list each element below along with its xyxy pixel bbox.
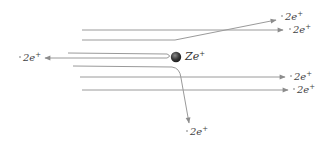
nucleus-charge: + <box>199 50 205 58</box>
alpha-symbol: 2e <box>190 126 202 137</box>
nucleus-symbol: Ze <box>185 50 199 63</box>
alpha-label-deflected-down: 2e+ <box>186 127 208 138</box>
alpha-dot-icon <box>19 56 21 58</box>
alpha-symbol: 2e <box>297 84 309 95</box>
alpha-dot-icon <box>186 130 188 132</box>
alpha-dot-icon <box>293 88 295 90</box>
trajectory-backscattered <box>45 53 170 58</box>
alpha-symbol: 2e <box>293 24 305 35</box>
alpha-label-deflected-up: 2e+ <box>281 12 303 23</box>
nucleus-label: Ze+ <box>185 52 205 63</box>
alpha-dot-icon <box>289 28 291 30</box>
trajectory-deflected-down <box>73 66 189 123</box>
alpha-symbol: 2e <box>23 52 35 63</box>
alpha-label-backscattered: 2e+ <box>19 53 41 64</box>
alpha-label-straight-3: 2e+ <box>293 85 315 96</box>
alpha-symbol: 2e <box>285 11 297 22</box>
alpha-charge: + <box>305 23 311 31</box>
alpha-charge: + <box>202 125 208 133</box>
nucleus-icon <box>171 52 181 62</box>
alpha-symbol: 2e <box>294 71 306 82</box>
alpha-charge: + <box>306 70 312 78</box>
alpha-charge: + <box>309 83 315 91</box>
alpha-charge: + <box>297 10 303 18</box>
alpha-dot-icon <box>281 15 283 17</box>
alpha-charge: + <box>35 51 41 59</box>
alpha-label-straight-2: 2e+ <box>290 72 312 83</box>
alpha-label-straight-1: 2e+ <box>289 25 311 36</box>
alpha-dot-icon <box>290 75 292 77</box>
